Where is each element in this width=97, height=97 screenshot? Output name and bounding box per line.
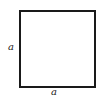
diagram-canvas: a a (0, 0, 97, 97)
left-side-label: a (8, 42, 14, 52)
square-shape (19, 10, 96, 88)
bottom-side-label: a (51, 87, 57, 97)
